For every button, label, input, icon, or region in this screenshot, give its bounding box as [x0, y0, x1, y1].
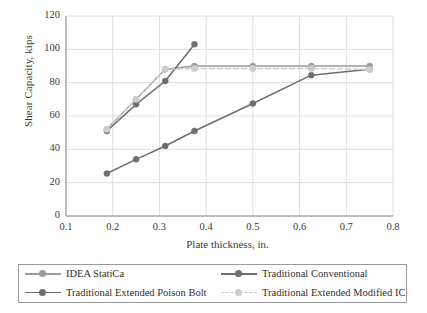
legend-marker-icon [221, 287, 257, 299]
data-point-marker [104, 171, 110, 177]
legend-label: Traditional Extended Poison Bolt [66, 288, 207, 299]
y-tick-label: 40 [32, 142, 60, 153]
data-point-marker [162, 66, 168, 72]
x-tick-label: 0.3 [143, 221, 175, 232]
series-line-3 [107, 69, 370, 130]
legend-label: Traditional Extended Modified IC [262, 288, 405, 299]
x-tick-label: 0.2 [97, 221, 129, 232]
legend-marker-icon [25, 287, 61, 299]
x-tick-label: 0.8 [377, 221, 409, 232]
y-tick-label: 60 [32, 109, 60, 120]
chart-legend: IDEA StatiCa Traditional Conventional Tr… [18, 264, 407, 303]
data-point-marker [191, 65, 197, 71]
data-point-marker [162, 78, 168, 84]
x-tick-label: 0.4 [190, 221, 222, 232]
y-tick-label: 80 [32, 76, 60, 87]
data-series-layer [104, 41, 373, 176]
series-line-1 [107, 69, 370, 173]
legend-label: IDEA StatiCa [66, 269, 124, 280]
data-point-marker [366, 66, 372, 72]
y-tick-label: 100 [32, 42, 60, 53]
x-tick-label: 0.7 [330, 221, 362, 232]
y-tick-label: 0 [32, 209, 60, 220]
x-tick-label: 0.1 [50, 221, 82, 232]
data-point-marker [308, 65, 314, 71]
data-point-marker [250, 101, 256, 107]
x-tick-label: 0.6 [284, 221, 316, 232]
x-tick-label: 0.5 [237, 221, 269, 232]
data-point-marker [191, 128, 197, 134]
data-point-marker [133, 156, 139, 162]
series-line-0 [107, 66, 370, 129]
legend-item-idea-statica: IDEA StatiCa [19, 268, 215, 280]
x-axis-title: Plate thickness, in. [60, 238, 395, 250]
data-point-marker [133, 96, 139, 102]
legend-item-traditional-extended-poison-bolt: Traditional Extended Poison Bolt [19, 287, 215, 299]
data-point-marker [104, 126, 110, 132]
chart-figure: Shear Capacity, kips Plate thickness, in… [0, 0, 427, 313]
data-point-marker [162, 143, 168, 149]
series-line-2 [107, 44, 195, 131]
legend-item-traditional-extended-modified-ic: Traditional Extended Modified IC [215, 287, 408, 299]
y-tick-label: 20 [32, 176, 60, 187]
grid-lines [66, 16, 393, 216]
legend-label: Traditional Conventional [262, 269, 367, 280]
legend-marker-icon [25, 268, 61, 280]
data-point-marker [308, 72, 314, 78]
data-point-marker [191, 41, 197, 47]
y-tick-label: 120 [32, 9, 60, 20]
data-point-marker [250, 65, 256, 71]
legend-marker-icon [221, 268, 257, 280]
legend-item-traditional-conventional: Traditional Conventional [215, 268, 408, 280]
